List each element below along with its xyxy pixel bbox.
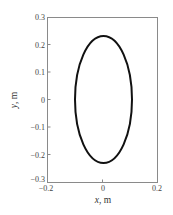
plot-frame [48, 18, 158, 183]
ellipse-curve [75, 36, 132, 163]
y-tick-label: 0 [41, 96, 45, 105]
y-tick-label: 0.1 [35, 68, 45, 77]
x-tick-label: 0 [101, 184, 105, 193]
y-tick-label: −0.3 [30, 175, 45, 184]
x-axis-label: x, m [94, 195, 112, 205]
y-tick-labels: 0.3 0.2 0.1 0 −0.1 −0.2 −0.3 [30, 13, 45, 184]
y-tick-label: −0.1 [30, 123, 45, 132]
y-axis-label: y, m [9, 91, 19, 109]
chart: 0.3 0.2 0.1 0 −0.1 −0.2 −0.3 −0.2 0 0.2 … [0, 0, 173, 215]
y-axis-unit: , m [9, 91, 19, 104]
y-tick-label: −0.2 [30, 151, 45, 160]
x-tick-label: −0.2 [39, 184, 54, 193]
x-axis-unit: , m [99, 195, 112, 205]
x-tick-label: 0.2 [152, 184, 162, 193]
x-tick-labels: −0.2 0 0.2 [39, 184, 162, 193]
y-tick-label: 0.3 [35, 13, 45, 22]
y-tick-label: 0.2 [35, 41, 45, 50]
